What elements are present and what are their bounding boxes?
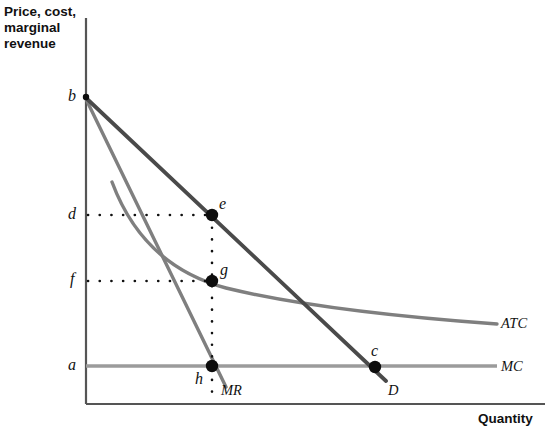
point-marker-b <box>83 94 89 100</box>
point-label-e: e <box>219 196 226 212</box>
axis-label-d: d <box>68 206 76 222</box>
curve-label-d: D <box>388 382 398 399</box>
axis-label-f: f <box>70 271 74 287</box>
y-axis-title: Price, cost, marginal revenue <box>4 4 100 52</box>
axis-label-b: b <box>68 88 76 104</box>
point-marker-c <box>369 361 381 373</box>
figure-canvas: Price, cost, marginal revenue Quantity b… <box>0 0 550 446</box>
x-axis-title: Quantity <box>478 411 533 427</box>
point-marker-h <box>206 360 218 372</box>
point-label-c: c <box>371 343 378 359</box>
axes-group <box>86 18 545 404</box>
chart-svg <box>0 0 550 446</box>
point-marker-g <box>206 275 218 287</box>
point-marker-e <box>206 209 218 221</box>
curve-label-atc: ATC <box>501 315 527 332</box>
point-label-g: g <box>220 262 228 278</box>
demand-line <box>85 97 386 381</box>
point-label-h: h <box>195 371 203 387</box>
axis-label-a: a <box>68 357 76 373</box>
curve-label-mr: MR <box>221 382 242 399</box>
curve-label-mc: MC <box>501 358 523 375</box>
marginal-revenue-line <box>85 97 226 387</box>
